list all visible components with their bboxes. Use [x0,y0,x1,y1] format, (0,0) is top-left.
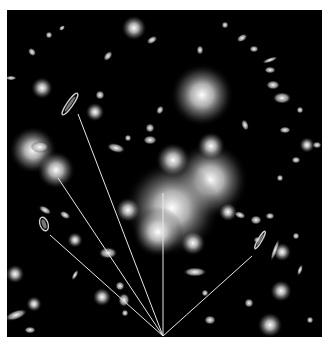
small-galaxy [306,316,313,323]
galaxy [218,202,237,221]
small-galaxy [183,267,207,277]
small-galaxy [196,45,203,55]
small-galaxy [292,232,299,239]
small-galaxy [265,212,275,219]
galaxy [155,142,190,177]
small-galaxy [121,309,128,316]
small-galaxy [250,215,262,225]
small-galaxy [296,106,303,113]
small-galaxy [276,174,283,181]
small-galaxy [45,31,52,38]
galaxy [257,312,283,337]
small-galaxy [272,92,291,104]
small-galaxy [249,45,259,52]
galaxy [85,102,104,121]
small-galaxy [143,135,157,145]
small-galaxy [24,326,36,333]
small-galaxy [115,281,125,291]
galaxy [26,296,42,312]
galaxy [37,151,75,189]
small-galaxy [279,126,291,133]
galaxy [197,132,226,161]
small-galaxy [204,315,216,325]
small-galaxy [124,134,131,141]
small-galaxy [221,21,228,28]
small-galaxy [145,123,155,133]
small-galaxy [291,156,301,163]
galaxy [67,232,83,248]
small-galaxy [264,66,276,73]
galaxy [180,230,206,256]
small-galaxy [244,298,254,308]
small-galaxy [30,141,49,153]
galaxy [92,287,111,306]
small-galaxy [95,90,105,100]
galaxy-cluster-canvas [7,10,322,337]
galaxy [170,63,234,127]
small-galaxy [312,141,322,148]
galaxy [115,197,141,223]
astronomical-image [7,10,322,337]
small-galaxy [266,80,280,90]
galaxy [31,77,53,99]
galaxy [270,280,292,302]
galaxy [121,15,147,41]
